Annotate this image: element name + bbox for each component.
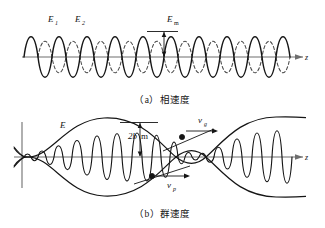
label-em: E m [166, 14, 179, 26]
svg-text:E: E [166, 14, 173, 24]
svg-text:2: 2 [82, 20, 85, 26]
svg-text:E: E [74, 14, 81, 24]
svg-text:v: v [167, 180, 171, 190]
panel-phase-velocity: z E 1 E 2 E m [0, 0, 325, 92]
svg-text:1: 1 [55, 20, 58, 26]
label-e-b: E [59, 120, 66, 130]
svg-text:m: m [141, 131, 148, 141]
label-e1: E 1 [47, 14, 58, 26]
svg-text:E: E [47, 14, 54, 24]
group-velocity-marker: v g [163, 115, 218, 151]
z-axis-arrowhead-a [295, 54, 303, 60]
svg-text:g: g [204, 121, 207, 127]
svg-text:v: v [198, 115, 202, 125]
svg-text:m: m [174, 20, 179, 26]
z-axis-label-a: z [304, 53, 309, 62]
label-2b-m: 2b m [128, 131, 148, 141]
caption-group-velocity: （b）群速度 [0, 206, 325, 220]
label-e2: E 2 [74, 14, 85, 26]
panel-group-velocity: z E 2b m v g [0, 104, 325, 206]
physics-figure: z E 1 E 2 E m （a）相速度 [0, 0, 325, 228]
z-axis-arrowhead-b [295, 154, 303, 160]
z-axis-label-b: z [304, 153, 309, 162]
svg-text:2b: 2b [128, 131, 138, 141]
svg-text:p: p [172, 186, 176, 192]
amplitude-measure-em [147, 32, 178, 57]
